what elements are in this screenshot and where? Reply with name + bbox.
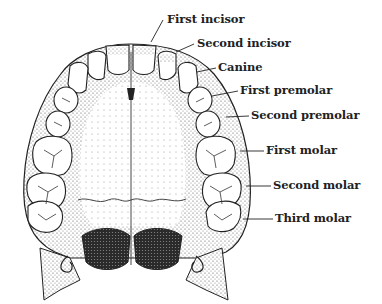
label-second-molar: Second molar [273,180,360,192]
incisor-2-left [88,51,106,79]
label-third-molar: Third molar [275,213,351,225]
label-second-premolar: Second premolar [251,110,359,122]
leader-second-incisor [176,44,194,52]
label-first-molar: First molar [266,145,337,157]
leader-first-incisor [151,20,163,42]
molar-3-left [28,201,63,232]
label-first-incisor: First incisor [167,14,244,26]
dental-arch-diagram: First incisorSecond incisorCanineFirst p… [0,0,382,304]
label-canine: Canine [218,62,262,74]
molar-1-left [33,136,72,175]
molar-1-right [196,136,235,175]
label-second-incisor: Second incisor [197,38,291,50]
label-first-premolar: First premolar [240,85,332,97]
molar-3-right [206,201,241,231]
